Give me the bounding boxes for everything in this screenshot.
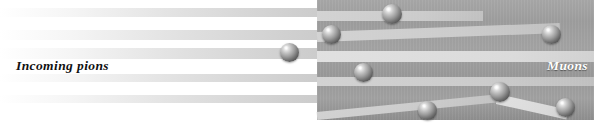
pion-incoming-sphere-icon bbox=[280, 43, 299, 62]
muon-top-sphere-icon bbox=[382, 4, 402, 24]
muon-lower-right-sphere-icon bbox=[556, 98, 575, 117]
pion-band-2 bbox=[0, 30, 322, 40]
muon-right-upper-sphere-icon bbox=[542, 25, 561, 44]
pion-band-5 bbox=[0, 95, 322, 103]
muon-lower-mid-sphere-icon bbox=[490, 82, 510, 102]
muon-upper-left-sphere-icon bbox=[322, 25, 341, 44]
muon-lower-left-sphere-icon bbox=[418, 101, 437, 120]
incoming-pions-label: Incoming pions bbox=[16, 58, 109, 74]
pion-band-1 bbox=[0, 8, 322, 17]
pion-band-4 bbox=[0, 74, 322, 82]
particle-beam-figure: Incoming pions Muons bbox=[0, 0, 594, 129]
muon-middle-sphere-icon bbox=[354, 63, 373, 82]
muons-label: Muons bbox=[547, 58, 588, 74]
